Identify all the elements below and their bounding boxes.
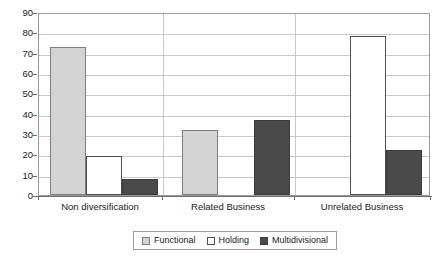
plot-area xyxy=(38,13,430,196)
y-tick-label: 0 xyxy=(3,191,33,201)
bar-holding-non-diversification xyxy=(86,156,122,195)
y-tick-mark xyxy=(33,74,37,75)
legend-item-functional: Functional xyxy=(142,235,196,246)
y-tick-label: 60 xyxy=(3,69,33,79)
y-tick-mark xyxy=(33,176,37,177)
y-tick-label: 40 xyxy=(3,110,33,120)
y-tick-label: 90 xyxy=(3,8,33,18)
y-tick-label: 30 xyxy=(3,130,33,140)
y-tick-label: 20 xyxy=(3,150,33,160)
legend-swatch-icon xyxy=(207,237,215,245)
y-tick-mark xyxy=(33,135,37,136)
y-tick-mark xyxy=(33,94,37,95)
y-tick-label: 50 xyxy=(3,89,33,99)
gridline xyxy=(39,34,429,35)
x-tick-mark xyxy=(430,196,431,200)
legend-label: Functional xyxy=(154,235,196,246)
x-axis-line xyxy=(34,196,432,197)
x-category-label-related-business: Related Business xyxy=(162,200,294,214)
x-category-label-unrelated-business: Unrelated Business xyxy=(294,200,430,214)
legend-label: Holding xyxy=(219,235,250,246)
legend-item-multidivisional: Multidivisional xyxy=(260,235,328,246)
bar-holding-unrelated-business xyxy=(350,36,386,195)
y-tick-label: 80 xyxy=(3,28,33,38)
y-tick-label: 70 xyxy=(3,49,33,59)
category-separator xyxy=(163,14,164,195)
bar-multidivisional-related-business xyxy=(254,120,290,195)
y-tick-mark xyxy=(33,54,37,55)
y-tick-mark xyxy=(33,155,37,156)
legend-label: Multidivisional xyxy=(272,235,328,246)
x-axis: Non diversification Related Business Unr… xyxy=(38,200,430,216)
bar-functional-related-business xyxy=(182,130,218,195)
x-category-label-non-diversification: Non diversification xyxy=(38,200,162,214)
bar-functional-non-diversification xyxy=(50,47,86,195)
legend-item-holding: Holding xyxy=(207,235,250,246)
bar-multidivisional-non-diversification xyxy=(122,179,158,195)
category-separator xyxy=(295,14,296,195)
y-tick-mark xyxy=(33,115,37,116)
bar-chart: 90 80 70 60 50 40 30 20 10 0 xyxy=(0,0,437,266)
bar-multidivisional-unrelated-business xyxy=(386,150,422,195)
y-tick-mark xyxy=(33,33,37,34)
y-tick-label: 10 xyxy=(3,171,33,181)
y-axis: 90 80 70 60 50 40 30 20 10 0 xyxy=(0,13,33,196)
legend-swatch-icon xyxy=(142,237,150,245)
legend-swatch-icon xyxy=(260,237,268,245)
chart-legend: Functional Holding Multidivisional xyxy=(133,231,337,250)
y-tick-mark xyxy=(33,13,37,14)
